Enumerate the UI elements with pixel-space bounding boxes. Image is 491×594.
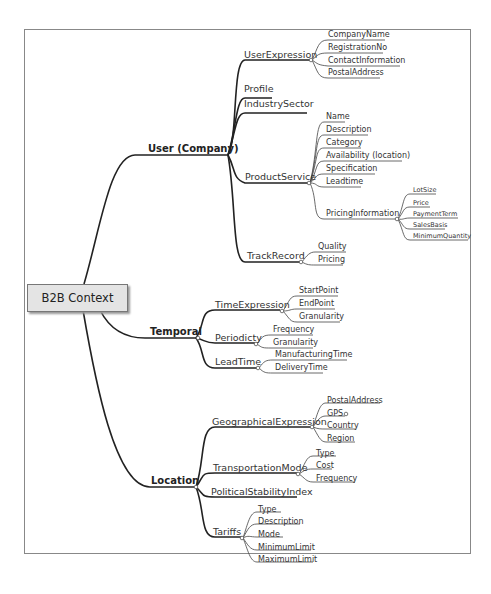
node-politicalstabilityindex[interactable]: PoliticalStabilityIndex bbox=[211, 487, 313, 497]
leaf-specification[interactable]: Specification bbox=[326, 165, 377, 173]
leaf-lotsize[interactable]: LotSize bbox=[413, 187, 436, 194]
leaf-paymentterm[interactable]: PaymentTerm bbox=[413, 211, 457, 218]
leaf-cost[interactable]: Cost bbox=[316, 462, 334, 470]
node-timeexpression[interactable]: TimeExpression bbox=[215, 300, 290, 310]
leaf-tariff-description[interactable]: Description bbox=[258, 518, 304, 526]
branch-location[interactable]: Location bbox=[151, 476, 199, 486]
branch-temporal[interactable]: Temporal bbox=[150, 327, 202, 337]
node-industrysector[interactable]: IndustrySector bbox=[244, 99, 314, 109]
leaf-maximumlimit[interactable]: MaximumLimit bbox=[258, 556, 317, 564]
leaf-quality[interactable]: Quality bbox=[318, 243, 347, 251]
leaf-country[interactable]: Country bbox=[327, 422, 359, 430]
central-node-label: B2B Context bbox=[42, 291, 114, 305]
leaf-region[interactable]: Region bbox=[327, 435, 354, 443]
leaf-manufacturingtime[interactable]: ManufacturingTime bbox=[275, 351, 353, 359]
leaf-leadtime[interactable]: Leadtime bbox=[326, 178, 363, 186]
leaf-salesbasis[interactable]: SalesBasis bbox=[413, 222, 447, 229]
node-profile[interactable]: Profile bbox=[244, 84, 274, 94]
node-trackrecord[interactable]: TrackRecord bbox=[247, 251, 305, 261]
leaf-type[interactable]: Type bbox=[316, 450, 334, 458]
node-tariffs[interactable]: Tariffs bbox=[213, 527, 241, 537]
leaf-postaladdress-geo[interactable]: PostalAddress bbox=[327, 397, 383, 405]
branch-user-company[interactable]: User (Company) bbox=[148, 144, 239, 154]
leaf-tariff-type[interactable]: Type bbox=[258, 506, 276, 514]
node-pricinginformation[interactable]: PricingInformation bbox=[326, 210, 399, 218]
leaf-registrationno[interactable]: RegistrationNo bbox=[328, 44, 387, 52]
leaf-granularity[interactable]: Granularity bbox=[299, 313, 344, 321]
leaf-deliverytime[interactable]: DeliveryTime bbox=[275, 364, 328, 372]
node-transportationmode[interactable]: TransportationMode bbox=[213, 463, 307, 473]
leaf-contactinformation[interactable]: ContactInformation bbox=[328, 57, 405, 65]
central-node[interactable]: B2B Context bbox=[27, 284, 128, 312]
node-leadtime[interactable]: LeadTime bbox=[215, 357, 261, 367]
node-periodicty[interactable]: Periodicty bbox=[215, 333, 262, 343]
leaf-tariff-mode[interactable]: Mode bbox=[258, 531, 280, 539]
leaf-companyname[interactable]: CompanyName bbox=[328, 31, 390, 39]
node-userexpression[interactable]: UserExpression bbox=[244, 50, 317, 60]
leaf-price[interactable]: Price bbox=[413, 200, 429, 207]
leaf-granularity-2[interactable]: Granularity bbox=[273, 339, 318, 347]
leaf-pricing[interactable]: Pricing bbox=[318, 256, 345, 264]
leaf-description[interactable]: Description bbox=[326, 126, 372, 134]
node-geographicalexpression[interactable]: GeographicalExpression bbox=[212, 417, 327, 427]
leaf-name[interactable]: Name bbox=[326, 113, 350, 121]
node-productservice[interactable]: ProductService bbox=[245, 172, 316, 182]
leaf-frequency[interactable]: Frequency bbox=[273, 326, 314, 334]
leaf-gps[interactable]: GPS bbox=[327, 410, 343, 418]
leaf-endpoint[interactable]: EndPoint bbox=[299, 300, 334, 308]
leaf-minimumlimit[interactable]: MinimumLimit bbox=[258, 544, 315, 552]
leaf-availability[interactable]: Availability (location) bbox=[326, 152, 410, 160]
leaf-postaladdress[interactable]: PostalAddress bbox=[328, 69, 384, 77]
leaf-frequency-transport[interactable]: Frequency bbox=[316, 475, 357, 483]
leaf-category[interactable]: Category bbox=[326, 139, 363, 147]
leaf-minimumquantity[interactable]: MinimumQuantity bbox=[413, 233, 471, 240]
leaf-startpoint[interactable]: StartPoint bbox=[299, 287, 338, 295]
